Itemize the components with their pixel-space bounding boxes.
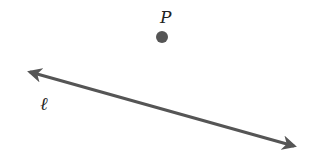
line-l: [30, 72, 294, 146]
diagram-canvas: P ℓ: [0, 0, 325, 159]
geometry-diagram: P ℓ: [0, 0, 325, 159]
point-label: P: [159, 7, 172, 27]
point-p: [156, 31, 168, 43]
line-label: ℓ: [40, 93, 48, 114]
